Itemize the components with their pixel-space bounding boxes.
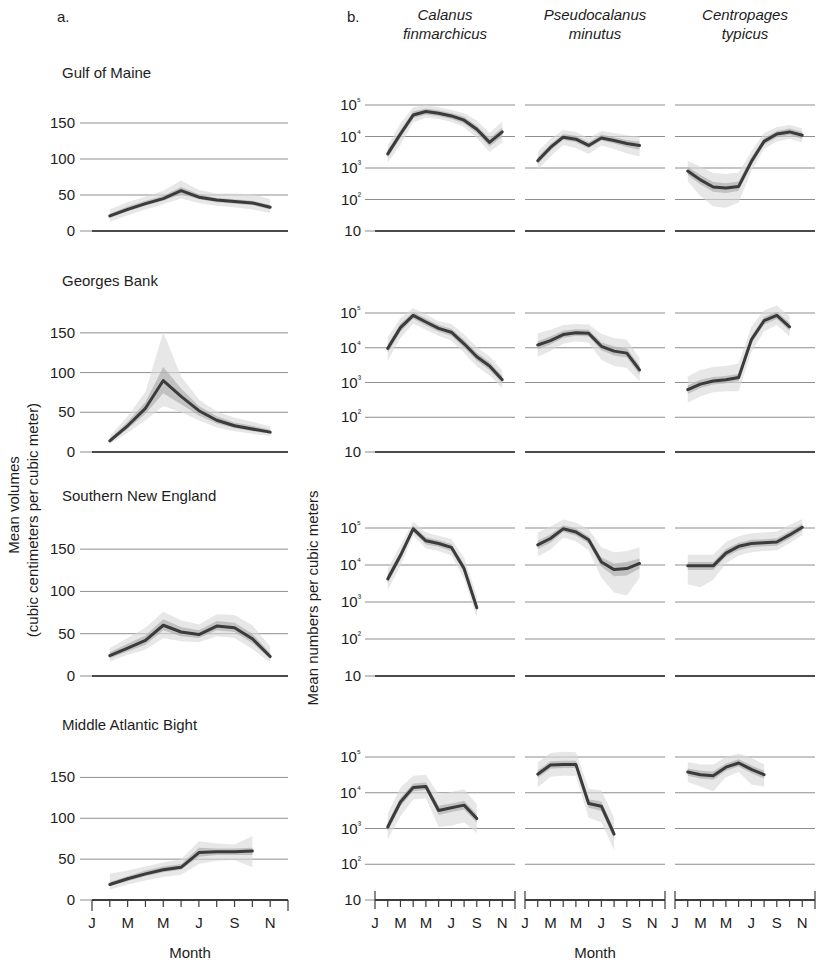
y-tick-label: 0 — [67, 891, 75, 908]
panel-b-series-r1-c2 — [688, 305, 790, 402]
species-title-0: Calanusfinmarchicus — [403, 6, 488, 42]
y-tick-label: 100 — [50, 150, 75, 167]
region-title: Middle Atlantic Bight — [62, 716, 198, 733]
month-label: N — [647, 914, 658, 931]
y-tick-label: 10² — [341, 854, 362, 872]
panel-letter-a: a. — [57, 8, 70, 25]
y-tick-label: 100 — [50, 582, 75, 599]
panel-b-r2-c0 — [365, 521, 515, 676]
panel-letter-b: b. — [347, 8, 360, 25]
left-axis-title-line2: (cubic centimeters per cubic meter) — [24, 403, 41, 637]
panel-b-series-r3-c1 — [538, 752, 614, 850]
month-label: S — [772, 914, 782, 931]
panel-b-y-axis-2: 1010²10³10⁴10⁵ — [340, 518, 362, 684]
y-tick-label: 0 — [67, 222, 75, 239]
month-label: M — [157, 914, 170, 931]
y-tick-label: 150 — [50, 768, 75, 785]
panel-a-series-3 — [110, 836, 253, 889]
y-tick-label: 10⁴ — [340, 127, 361, 145]
figure-root: a.b.CalanusfinmarchicusPseudocalanusminu… — [0, 0, 819, 971]
panel-b-y-axis-1: 1010²10³10⁴10⁵ — [340, 303, 362, 460]
species-title-line2: finmarchicus — [403, 25, 488, 42]
panel-a-series-1 — [110, 332, 270, 444]
month-label: J — [88, 914, 96, 931]
panel-b-r3-c0: JMMJSN — [365, 757, 515, 931]
y-tick-label: 10⁵ — [340, 95, 361, 113]
y-tick-label: 100 — [50, 809, 75, 826]
panel-a-region-3: Middle Atlantic Bight050100150JMMJSNMont… — [50, 716, 288, 961]
panel-b-series-r0-c2 — [688, 125, 803, 208]
species-title-line1: Calanus — [417, 6, 473, 23]
y-tick-label: 10² — [341, 629, 362, 647]
confidence-band-outer — [538, 519, 640, 595]
y-tick-label: 50 — [58, 850, 75, 867]
panel-b-series-r3-c0 — [388, 775, 477, 840]
panel-b-x-axis-c2: JMMJSN — [671, 891, 815, 931]
y-tick-label: 10 — [344, 667, 361, 684]
y-tick-label: 0 — [67, 443, 75, 460]
y-tick-label: 50 — [58, 625, 75, 642]
month-label: J — [448, 914, 456, 931]
y-tick-label: 10 — [344, 222, 361, 239]
panel-a-series-2 — [110, 612, 270, 663]
y-tick-label: 10² — [341, 407, 362, 425]
panel-b-r1-c1 — [525, 313, 665, 452]
panel-b-r0-c0 — [365, 105, 515, 231]
panel-b-region-3: 1010²10³10⁴10⁵JMMJSNJMMJSNJMMJSN — [340, 747, 815, 931]
y-tick-label: 0 — [67, 667, 75, 684]
month-label: M — [570, 914, 583, 931]
month-label: S — [472, 914, 482, 931]
y-tick-label: 10³ — [341, 819, 362, 837]
y-tick-label: 10⁴ — [340, 555, 361, 573]
right-axis-title: Mean numbers per cubic meters — [304, 490, 321, 705]
region-title: Gulf of Maine — [62, 64, 151, 81]
x-axis-title-right: Month — [574, 944, 616, 961]
panel-b-r2-c1 — [525, 519, 665, 676]
species-title-line2: typicus — [722, 25, 769, 42]
month-label: J — [521, 914, 529, 931]
mean-line — [388, 529, 477, 608]
x-axis-title: Month — [169, 944, 211, 961]
left-axis-title-line1: Mean volumes — [5, 456, 22, 554]
panel-b-r3-c2: JMMJSN — [671, 754, 815, 931]
species-title-line1: Pseudocalanus — [544, 6, 647, 23]
species-title-2: Centropagestypicus — [702, 6, 788, 42]
month-label: M — [420, 914, 433, 931]
panel-a-x-axis: JMMJSNMonth — [88, 900, 288, 961]
y-tick-label: 150 — [50, 114, 75, 131]
panel-b-x-axis-c1: JMMJSN — [521, 891, 665, 931]
y-tick-label: 150 — [50, 540, 75, 557]
confidence-band-outer — [688, 519, 803, 587]
month-label: S — [622, 914, 632, 931]
y-tick-label: 10⁴ — [340, 783, 361, 801]
month-label: J — [748, 914, 756, 931]
panel-b-series-r2-c2 — [688, 519, 803, 587]
panel-b-series-r2-c1 — [538, 519, 640, 595]
y-tick-label: 10 — [344, 443, 361, 460]
panel-b-r0-c2 — [675, 105, 815, 231]
species-title-line2: minutus — [569, 25, 622, 42]
region-title: Georges Bank — [62, 272, 158, 289]
y-tick-label: 10 — [344, 891, 361, 908]
y-tick-label: 10³ — [341, 158, 362, 176]
left-axis-title: Mean volumes(cubic centimeters per cubic… — [5, 403, 41, 637]
species-title-1: Pseudocalanusminutus — [544, 6, 647, 42]
month-label: S — [230, 914, 240, 931]
month-label: J — [671, 914, 679, 931]
panel-b-r3-c1: JMMJSN — [521, 752, 665, 931]
month-label: M — [544, 914, 557, 931]
month-label: N — [497, 914, 508, 931]
region-title: Southern New England — [62, 487, 216, 504]
panel-a-region-1: Georges Bank050100150 — [50, 272, 288, 460]
panel-b-r0-c1 — [525, 105, 665, 231]
month-label: M — [121, 914, 134, 931]
month-label: M — [720, 914, 733, 931]
month-label: J — [195, 914, 203, 931]
panel-b-y-axis-3: 1010²10³10⁴10⁵ — [340, 747, 362, 908]
panel-b-series-r1-c1 — [538, 324, 640, 381]
panel-b-r2-c2 — [675, 519, 815, 676]
y-tick-label: 10³ — [341, 592, 362, 610]
panel-b-r1-c2 — [675, 305, 815, 452]
panel-b-series-r2-c0 — [388, 521, 477, 617]
y-tick-label: 50 — [58, 186, 75, 203]
